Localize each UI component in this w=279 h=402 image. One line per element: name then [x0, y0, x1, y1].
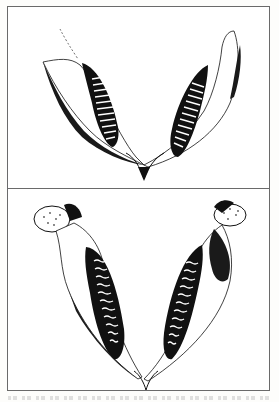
- figure-panel-top: [8, 7, 269, 187]
- figure-caption-cropped-text: [8, 396, 270, 400]
- jaw-illustration-top: [8, 7, 269, 187]
- jaw-illustration-bottom: [8, 189, 269, 390]
- figure-panel-bottom: [8, 189, 269, 390]
